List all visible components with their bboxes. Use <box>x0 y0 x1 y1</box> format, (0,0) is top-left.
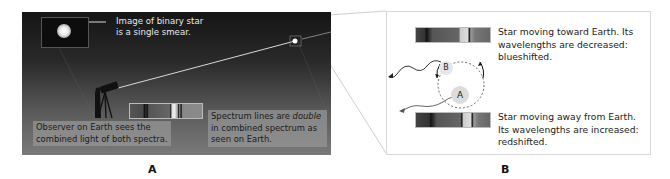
spectrum-caption-line-1: Spectrum lines are double <box>211 111 324 123</box>
redshift-line-3: redshifted. <box>498 136 639 149</box>
redshift-description: Star moving away from Earth. Its wavelen… <box>498 111 639 149</box>
panel-b-label: B <box>501 163 509 176</box>
spectrum-caption-line-2: in combined spectrum as <box>211 123 324 135</box>
star-b-label: B <box>443 63 449 72</box>
binary-star-image-inset <box>41 17 89 48</box>
inset-caption-line-1: Image of binary star <box>116 16 203 27</box>
redshifted-spectrum <box>415 112 491 128</box>
spectrum-caption-box: Spectrum lines are double in combined sp… <box>208 110 327 147</box>
panel-a-observation-scene: Image of binary star is a single smear. … <box>22 12 331 155</box>
observer-caption-line-1: Observer on Earth sees the <box>36 122 168 134</box>
inset-caption-line-2: is a single smear. <box>116 27 203 38</box>
redshift-line-1: Star moving away from Earth. <box>498 111 639 124</box>
star-b-marker: B <box>439 61 453 75</box>
star-a-marker: A <box>451 86 469 104</box>
spectrum-caption-emphasis: double <box>293 111 322 121</box>
observer-caption-line-2: combined light of both spectra. <box>36 134 168 146</box>
combined-spectrum <box>129 103 203 119</box>
telescope-observer-icon <box>95 81 119 118</box>
star-smear-icon <box>57 24 71 38</box>
star-a-label: A <box>457 90 463 100</box>
observer-caption-box: Observer on Earth sees the combined ligh… <box>33 121 171 146</box>
panel-b-doppler-detail: Star moving toward Earth. Its wavelength… <box>386 11 651 155</box>
spectrum-caption-text: Spectrum lines are <box>211 111 293 121</box>
panel-a-label: A <box>148 163 157 176</box>
redshift-line-2: Its wavelengths are increased: <box>498 124 639 137</box>
inset-caption: Image of binary star is a single smear. <box>116 16 203 38</box>
spectrum-caption-line-3: seen on Earth. <box>211 134 324 146</box>
